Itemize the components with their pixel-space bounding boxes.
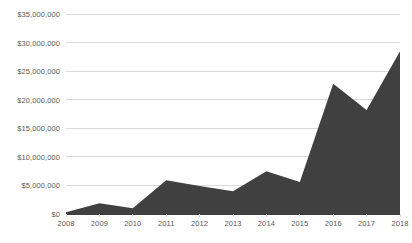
x-tick-label: 2012 <box>191 219 208 228</box>
x-tick-label: 2009 <box>91 219 108 228</box>
x-tick-label: 2015 <box>291 219 308 228</box>
x-tick-label: 2013 <box>224 219 241 228</box>
x-tick-label: 2017 <box>358 219 375 228</box>
area-chart: $0$5,000,000$10,000,000$15,000,000$20,00… <box>0 0 412 243</box>
x-tick-label: 2014 <box>258 219 275 228</box>
x-tick-label: 2011 <box>158 219 175 228</box>
x-tick-label: 2018 <box>391 219 408 228</box>
x-tick-label: 2008 <box>57 219 74 228</box>
x-tick-label: 2016 <box>325 219 342 228</box>
x-axis: 2008200920102011201220132014201520162017… <box>0 0 412 243</box>
x-tick-label: 2010 <box>124 219 141 228</box>
